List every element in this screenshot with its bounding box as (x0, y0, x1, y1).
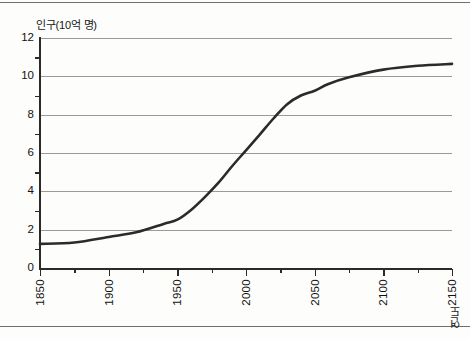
x-axis-title: 연도 (448, 306, 464, 328)
x-tick-label-1900: 1900 (103, 279, 115, 306)
x-tick-2000 (246, 269, 247, 276)
y-tick-label-12: 12 (8, 32, 34, 44)
y-minor-tick-1 (35, 249, 40, 250)
x-tick-1850 (40, 269, 41, 276)
y-tick-label-0: 0 (8, 262, 34, 274)
y-tick-label-4: 4 (8, 185, 34, 197)
x-tick-label-1950: 1950 (171, 279, 183, 306)
y-axis-title: 인구(10억 명) (36, 16, 97, 32)
x-tick-label-1850: 1850 (34, 279, 46, 306)
x-tick-label-2000: 2000 (240, 279, 252, 306)
y-minor-tick-3 (35, 211, 40, 212)
x-tick-2100 (383, 269, 384, 276)
x-tick-1950 (177, 269, 178, 276)
x-minor-tick-1925 (143, 269, 144, 273)
y-tick-label-2: 2 (8, 224, 34, 236)
x-tick-2050 (315, 269, 316, 276)
x-minor-tick-2075 (349, 269, 350, 273)
x-minor-tick-1875 (74, 269, 75, 273)
x-tick-label-2100: 2100 (377, 279, 389, 306)
population-series-line (40, 38, 452, 268)
y-minor-tick-7 (35, 134, 40, 135)
x-tick-label-2050: 2050 (309, 279, 321, 306)
y-axis-line (39, 37, 41, 269)
y-tick-label-10: 10 (8, 70, 34, 82)
chart-page: 인구(10억 명) 024681012 18501900195020002050… (0, 0, 470, 339)
y-minor-tick-9 (35, 96, 40, 97)
y-tick-label-8: 8 (8, 109, 34, 121)
y-minor-tick-5 (35, 172, 40, 173)
x-tick-label-2150: 2150 (446, 279, 458, 306)
plot-area (40, 38, 452, 268)
x-minor-tick-1975 (212, 269, 213, 273)
y-minor-tick-11 (35, 57, 40, 58)
x-tick-1900 (109, 269, 110, 276)
x-minor-tick-2025 (280, 269, 281, 273)
x-tick-2150 (452, 269, 453, 276)
x-minor-tick-2125 (418, 269, 419, 273)
y-tick-label-6: 6 (8, 147, 34, 159)
population-line-chart: 인구(10억 명) 024681012 18501900195020002050… (0, 0, 470, 339)
